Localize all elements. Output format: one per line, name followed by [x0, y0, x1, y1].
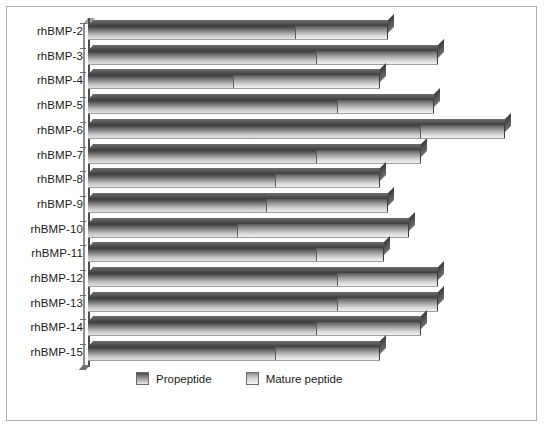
axis-tick — [80, 221, 86, 222]
bar-segment-mature-peptide[interactable] — [276, 174, 380, 187]
category-label: rhBMP-9 — [0, 198, 83, 210]
bar-segment-mature-peptide[interactable] — [267, 199, 388, 212]
stacked-bar[interactable] — [88, 199, 388, 212]
legend-swatch-mature-peptide-icon — [246, 372, 259, 385]
axis-tick — [80, 147, 86, 148]
bar-row: rhBMP-9 — [0, 193, 545, 217]
legend-label-propeptide: Propeptide — [156, 373, 212, 385]
bar-segment-mature-peptide[interactable] — [317, 51, 438, 64]
stacked-bar[interactable] — [88, 100, 434, 113]
category-label: rhBMP-3 — [0, 50, 83, 62]
stacked-bar[interactable] — [88, 75, 380, 88]
bar-base-shadow — [88, 39, 388, 40]
bar-row: rhBMP-14 — [0, 316, 545, 340]
bar-base-shadow — [88, 187, 380, 188]
category-label: rhBMP-7 — [0, 149, 83, 161]
bar-segment-propeptide[interactable] — [88, 273, 338, 286]
bar-segment-propeptide[interactable] — [88, 150, 317, 163]
category-label: rhBMP-5 — [0, 99, 83, 111]
bar-base-shadow — [88, 261, 384, 262]
bar-segment-mature-peptide[interactable] — [338, 273, 438, 286]
bar-base-shadow — [88, 212, 388, 213]
category-label: rhBMP-4 — [0, 74, 83, 86]
axis-tick — [80, 270, 86, 271]
category-label: rhBMP-11 — [0, 247, 83, 259]
axis-tick — [80, 196, 86, 197]
bar-segment-mature-peptide[interactable] — [317, 150, 421, 163]
bar-base-shadow — [88, 88, 380, 89]
bar-segment-mature-peptide[interactable] — [338, 100, 434, 113]
legend-item-mature-peptide[interactable]: Mature peptide — [246, 372, 343, 385]
stacked-bar[interactable] — [88, 125, 505, 138]
bar-row: rhBMP-6 — [0, 119, 545, 143]
category-label: rhBMP-10 — [0, 223, 83, 235]
axis-tick — [80, 319, 86, 320]
bar-base-shadow — [88, 163, 421, 164]
bar-row: rhBMP-4 — [0, 69, 545, 93]
bar-segment-propeptide[interactable] — [88, 298, 338, 311]
category-label: rhBMP-6 — [0, 124, 83, 136]
bar-segment-propeptide[interactable] — [88, 75, 234, 88]
legend-item-propeptide[interactable]: Propeptide — [136, 372, 212, 385]
stacked-bar[interactable] — [88, 224, 409, 237]
bar-row: rhBMP-5 — [0, 94, 545, 118]
stacked-bar[interactable] — [88, 248, 384, 261]
bar-segment-propeptide[interactable] — [88, 224, 238, 237]
bar-base-shadow — [88, 335, 421, 336]
bar-base-shadow — [88, 138, 505, 139]
bar-segment-propeptide[interactable] — [88, 100, 338, 113]
bar-row: rhBMP-3 — [0, 45, 545, 69]
bar-segment-mature-peptide[interactable] — [317, 322, 421, 335]
bar-row: rhBMP-10 — [0, 218, 545, 242]
legend-swatch-propeptide-icon — [136, 372, 149, 385]
bar-segment-mature-peptide[interactable] — [338, 298, 438, 311]
bar-segment-propeptide[interactable] — [88, 322, 317, 335]
category-label: rhBMP-14 — [0, 321, 83, 333]
bar-segment-mature-peptide[interactable] — [238, 224, 409, 237]
stacked-bar[interactable] — [88, 322, 421, 335]
axis-tick — [80, 295, 86, 296]
bar-row: rhBMP-12 — [0, 267, 545, 291]
axis-tick — [80, 23, 86, 24]
category-label: rhBMP-8 — [0, 173, 83, 185]
bar-base-shadow — [88, 311, 438, 312]
bar-segment-mature-peptide[interactable] — [234, 75, 380, 88]
axis-tick — [80, 171, 86, 172]
bar-base-shadow — [88, 113, 434, 114]
axis-tick — [80, 245, 86, 246]
bar-base-shadow — [88, 360, 380, 361]
chart-figure: rhBMP-2rhBMP-3rhBMP-4rhBMP-5rhBMP-6rhBMP… — [0, 0, 545, 429]
bar-segment-propeptide[interactable] — [88, 248, 317, 261]
bar-segment-propeptide[interactable] — [88, 347, 276, 360]
bar-row: rhBMP-2 — [0, 20, 545, 44]
category-label: rhBMP-13 — [0, 297, 83, 309]
stacked-bar[interactable] — [88, 150, 421, 163]
bar-row: rhBMP-7 — [0, 144, 545, 168]
bar-segment-mature-peptide[interactable] — [317, 248, 384, 261]
bar-row: rhBMP-11 — [0, 242, 545, 266]
stacked-bar[interactable] — [88, 298, 438, 311]
category-label: rhBMP-15 — [0, 346, 83, 358]
bar-row: rhBMP-15 — [0, 341, 545, 365]
bar-segment-mature-peptide[interactable] — [296, 26, 388, 39]
bar-segment-mature-peptide[interactable] — [276, 347, 380, 360]
stacked-bar[interactable] — [88, 174, 380, 187]
bar-segment-propeptide[interactable] — [88, 199, 267, 212]
bar-base-shadow — [88, 286, 438, 287]
bar-end-cap — [388, 14, 394, 33]
stacked-bar[interactable] — [88, 273, 438, 286]
stacked-bar[interactable] — [88, 26, 388, 39]
bar-base-shadow — [88, 237, 409, 238]
axis-tick — [80, 72, 86, 73]
bar-segment-propeptide[interactable] — [88, 125, 421, 138]
plot-area: rhBMP-2rhBMP-3rhBMP-4rhBMP-5rhBMP-6rhBMP… — [0, 0, 545, 429]
bar-segment-mature-peptide[interactable] — [421, 125, 504, 138]
y-axis-foot — [79, 365, 90, 370]
stacked-bar[interactable] — [88, 347, 380, 360]
axis-tick — [80, 48, 86, 49]
legend-label-mature-peptide: Mature peptide — [266, 373, 343, 385]
bar-segment-propeptide[interactable] — [88, 51, 317, 64]
bar-segment-propeptide[interactable] — [88, 26, 296, 39]
bar-row: rhBMP-8 — [0, 168, 545, 192]
bar-segment-propeptide[interactable] — [88, 174, 276, 187]
